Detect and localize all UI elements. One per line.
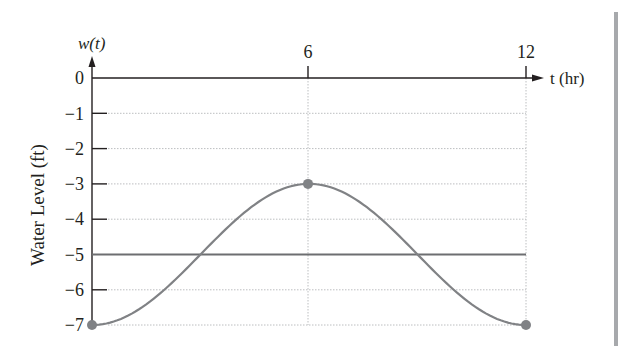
y-function-label: w(t) — [78, 34, 106, 53]
point-min-end — [521, 320, 531, 330]
svg-text:−3: −3 — [65, 174, 84, 194]
y-tick-labels: 0 −1 −2 −3 −4 −5 −6 −7 — [65, 68, 84, 335]
grid — [108, 78, 526, 325]
y-axis-label: Water Level (ft) — [27, 144, 49, 266]
y-axis-arrow-icon — [89, 56, 96, 67]
water-level-chart: w(t) 6 12 t (hr) 0 −1 −2 −3 −4 −5 −6 −7 … — [0, 0, 630, 346]
point-max — [303, 179, 313, 189]
svg-text:−6: −6 — [65, 280, 84, 300]
point-min-start — [87, 320, 97, 330]
x-tick-label-12: 12 — [517, 42, 535, 62]
svg-text:−5: −5 — [65, 245, 84, 265]
x-tick-label-6: 6 — [304, 42, 313, 62]
x-ticks — [308, 66, 526, 78]
page-edge-bar — [614, 12, 618, 346]
svg-text:−2: −2 — [65, 139, 84, 159]
svg-text:−7: −7 — [65, 315, 84, 335]
svg-text:−1: −1 — [65, 104, 84, 124]
x-axis-arrow-icon — [532, 75, 544, 82]
svg-text:0: 0 — [75, 68, 84, 88]
svg-text:−4: −4 — [65, 209, 84, 229]
y-ticks — [92, 113, 107, 289]
x-axis-label: t (hr) — [550, 69, 584, 88]
